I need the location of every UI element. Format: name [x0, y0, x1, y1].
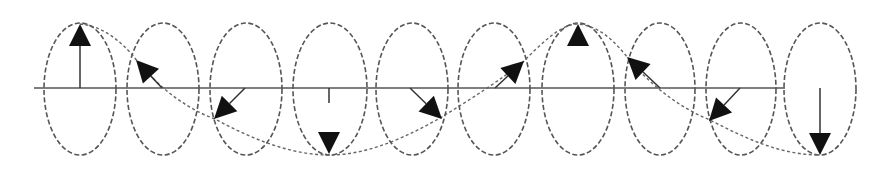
arrow-icon-up-right — [495, 61, 524, 88]
arrow-icon-up-left — [136, 60, 162, 88]
helix-trace-curve — [80, 24, 820, 155]
wavefront-ellipse-2 — [127, 23, 199, 155]
arrow-icon-down — [809, 88, 831, 155]
arrow-icon-up-left — [627, 57, 660, 88]
wavefront-ellipse-3 — [210, 23, 282, 155]
arrow-icon-down-left — [709, 88, 740, 121]
arrow-icon-down-left — [214, 88, 245, 119]
circular-polarization-diagram — [0, 0, 887, 171]
arrow-icon-down — [318, 88, 340, 154]
arrow-icon-up — [69, 24, 91, 88]
wavefront-ellipse-6 — [458, 23, 530, 155]
arrow-icon-down-right — [410, 88, 442, 119]
wavefront-ellipses — [44, 23, 856, 155]
arrow-icon-up — [567, 24, 589, 46]
